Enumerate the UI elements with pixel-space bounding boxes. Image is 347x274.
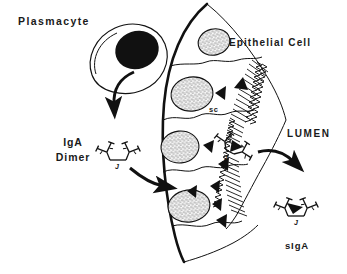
- siga-label: sIgA: [285, 240, 309, 251]
- iga-label-line1: IgA: [63, 136, 83, 148]
- sc-label: sc: [209, 105, 219, 114]
- plasmacyte-label: Plasmacyte: [18, 15, 90, 27]
- siga-transcytosis-diagram: J J J Plasmacyte Epith: [0, 0, 347, 274]
- epithelial-cell-label: Epithelial Cell: [229, 37, 311, 48]
- iga-label-line2: Dimer: [56, 151, 90, 163]
- lumen-label: LUMEN: [287, 128, 331, 139]
- figure-canvas: J J J Plasmacyte Epith: [0, 0, 347, 274]
